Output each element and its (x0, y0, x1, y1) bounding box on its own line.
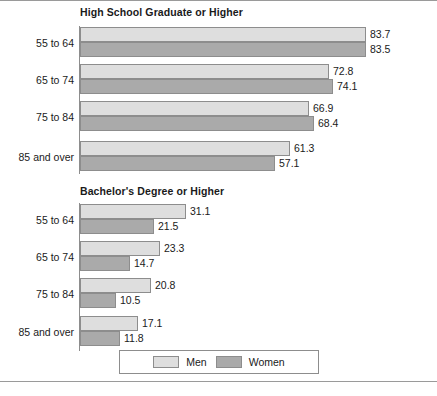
bar-row-women: 74.1 (80, 79, 333, 94)
chart-legend: Men Women (119, 350, 319, 374)
legend-swatch-men-icon (153, 356, 179, 368)
category-label: 65 to 74 (0, 251, 74, 263)
bar-value-men: 72.8 (333, 65, 353, 77)
chart-panel-bachelors: Bachelor's Degree or Higher 55 to 64 31.… (0, 180, 437, 345)
bar-value-women: 74.1 (337, 80, 357, 92)
bar-group: 65 to 74 72.8 74.1 (0, 63, 437, 97)
bar-row-men: 20.8 (80, 278, 151, 293)
bar-row-men: 61.3 (80, 141, 290, 156)
bar-men[interactable] (80, 64, 329, 79)
category-label: 85 and over (0, 151, 74, 163)
bar-group: 85 and over 17.1 11.8 (0, 315, 437, 349)
bar-row-men: 83.7 (80, 27, 366, 42)
bar-men[interactable] (80, 27, 366, 42)
bar-row-men: 72.8 (80, 64, 329, 79)
bar-men[interactable] (80, 101, 309, 116)
category-label: 55 to 64 (0, 37, 74, 49)
bar-women[interactable] (80, 79, 333, 94)
bar-value-women: 14.7 (134, 257, 154, 269)
footnote-clipped (2, 388, 122, 395)
category-label: 85 and over (0, 326, 74, 338)
category-label: 75 to 84 (0, 288, 74, 300)
category-label: 65 to 74 (0, 74, 74, 86)
legend-item-men[interactable]: Men (153, 356, 206, 368)
bar-women[interactable] (80, 293, 116, 308)
bar-row-women: 14.7 (80, 256, 130, 271)
bar-row-men: 31.1 (80, 204, 186, 219)
bar-value-men: 83.7 (370, 28, 390, 40)
bar-group: 75 to 84 20.8 10.5 (0, 277, 437, 311)
bar-value-women: 83.5 (370, 43, 390, 55)
chart-panel-high-school: High School Graduate or Higher 55 to 64 … (0, 0, 437, 180)
chart-figure: High School Graduate or Higher 55 to 64 … (0, 0, 437, 396)
bar-row-women: 83.5 (80, 42, 366, 57)
legend-label-women: Women (249, 356, 285, 368)
bar-men[interactable] (80, 141, 290, 156)
bar-men[interactable] (80, 204, 186, 219)
bar-women[interactable] (80, 156, 275, 171)
legend-swatch-women-icon (216, 356, 242, 368)
category-label: 75 to 84 (0, 111, 74, 123)
bar-value-men: 23.3 (164, 242, 184, 254)
category-label: 55 to 64 (0, 214, 74, 226)
bar-row-men: 66.9 (80, 101, 309, 116)
bar-value-men: 20.8 (155, 279, 175, 291)
bar-value-men: 66.9 (313, 102, 333, 114)
bar-men[interactable] (80, 241, 160, 256)
bar-value-men: 17.1 (142, 317, 162, 329)
bar-value-men: 31.1 (190, 205, 210, 217)
bar-women[interactable] (80, 116, 314, 131)
legend-item-women[interactable]: Women (216, 356, 285, 368)
bar-row-men: 23.3 (80, 241, 160, 256)
panel-title-bachelors: Bachelor's Degree or Higher (80, 185, 224, 197)
bar-row-women: 11.8 (80, 331, 120, 346)
bar-women[interactable] (80, 219, 154, 234)
bar-women[interactable] (80, 256, 130, 271)
legend-label-men: Men (186, 356, 206, 368)
bottom-divider-rule (0, 381, 437, 382)
bar-value-men: 61.3 (294, 142, 314, 154)
bar-group: 55 to 64 83.7 83.5 (0, 26, 437, 60)
bar-men[interactable] (80, 316, 138, 331)
bar-group: 65 to 74 23.3 14.7 (0, 240, 437, 274)
bar-value-women: 10.5 (120, 294, 140, 306)
bar-value-women: 68.4 (318, 117, 338, 129)
bar-value-women: 57.1 (279, 157, 299, 169)
bar-value-women: 21.5 (158, 220, 178, 232)
panel-title-high-school: High School Graduate or Higher (80, 6, 243, 18)
bar-row-women: 68.4 (80, 116, 314, 131)
bar-group: 75 to 84 66.9 68.4 (0, 100, 437, 134)
bar-row-women: 10.5 (80, 293, 116, 308)
bar-group: 55 to 64 31.1 21.5 (0, 203, 437, 237)
bar-group: 85 and over 61.3 57.1 (0, 140, 437, 174)
bar-row-women: 21.5 (80, 219, 154, 234)
bar-row-men: 17.1 (80, 316, 138, 331)
bar-women[interactable] (80, 42, 366, 57)
bar-women[interactable] (80, 331, 120, 346)
bar-value-women: 11.8 (124, 332, 144, 344)
bar-men[interactable] (80, 278, 151, 293)
bar-row-women: 57.1 (80, 156, 275, 171)
